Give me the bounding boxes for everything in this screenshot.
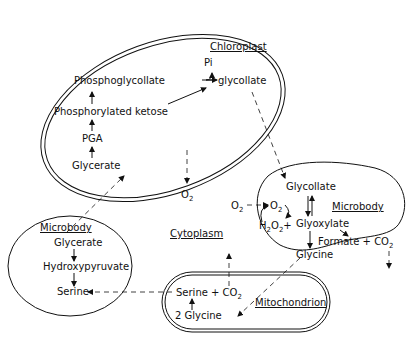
- metabolite-glycollate-microbody: Glycollate: [286, 181, 336, 192]
- metabolite-glycollate-chloroplast: glycollate: [218, 75, 266, 86]
- metabolite-glycine-microbody: Glycine: [296, 249, 333, 260]
- metabolite-pga: PGA: [82, 133, 103, 144]
- o2-in-label: O2: [231, 200, 243, 214]
- microbody-left-title: Microbody: [40, 222, 92, 233]
- metabolite-phosphorylated-ketose: Phosphorylated ketose: [54, 106, 168, 117]
- cytoplasm-o2: O2: [181, 189, 193, 203]
- transport-arrows: [66, 92, 300, 316]
- metabolite-serine-microbody: Serine: [57, 286, 89, 297]
- mitochondrion-title: Mitochondrion: [255, 297, 326, 308]
- chloroplast-title: Chloroplast: [210, 41, 267, 52]
- metabolite-o2-microbody: O2: [270, 200, 282, 214]
- metabolite-two-glycine: 2 Glycine: [175, 310, 222, 321]
- mitochondrion-arrows: [192, 254, 229, 310]
- metabolite-serine-co2: Serine + CO2: [176, 287, 242, 301]
- microbody-right-title: Microbody: [332, 201, 384, 212]
- cytoplasm-title: Cytoplasm: [170, 228, 223, 239]
- metabolite-glycerate-chloroplast: Glycerate: [72, 160, 120, 171]
- metabolite-h2o2: H2O2+: [259, 220, 292, 234]
- metabolite-formate-co2: Formate + CO2: [318, 236, 393, 250]
- metabolite-glyoxylate: Glyoxylate: [296, 218, 349, 229]
- chloroplast-membrane: [18, 3, 309, 233]
- metabolite-glycerate-microbody: Glycerate: [54, 237, 102, 248]
- metabolite-hydroxypyruvate: Hydroxypyruvate: [43, 261, 129, 272]
- photorespiration-diagram: Chloroplast Pi Phosphoglycollate glycoll…: [0, 0, 411, 341]
- metabolite-phosphoglycollate: Phosphoglycollate: [74, 75, 165, 86]
- metabolite-pi: Pi: [204, 57, 213, 68]
